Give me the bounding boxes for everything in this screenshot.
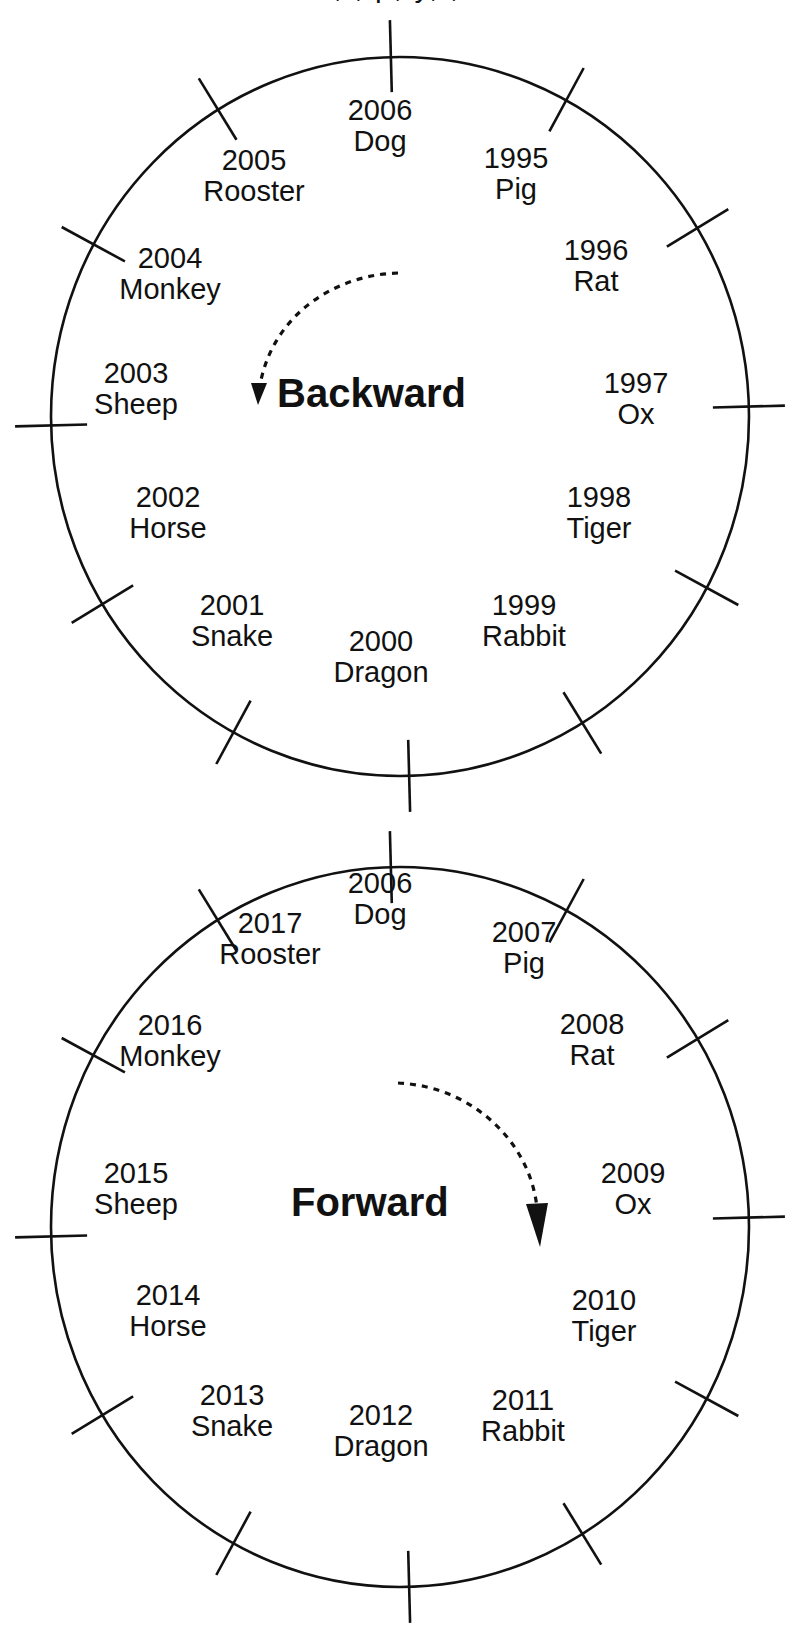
segment-divider-tick — [62, 1038, 125, 1072]
segment-label: 2012Dragon — [333, 1400, 428, 1462]
segment-label: 2013Snake — [191, 1380, 273, 1442]
segment-label: 2005Rooster — [203, 145, 305, 207]
segment-divider-tick — [408, 1551, 410, 1623]
segment-divider-tick — [408, 740, 410, 812]
segment-label: 2002Horse — [129, 482, 206, 544]
segment-label: 2015Sheep — [94, 1158, 178, 1220]
segment-divider-tick — [675, 571, 738, 605]
segment-label: 2004Monkey — [119, 243, 221, 305]
segment-label: 2008Rat — [560, 1009, 625, 1071]
zodiac-wheels-figure: , , p, y, , Backward Forward 2006Dog 199… — [0, 0, 794, 1647]
forward-wheel-circle — [51, 867, 749, 1587]
segment-label: 2007Pig — [492, 917, 557, 979]
segment-divider-tick — [15, 425, 87, 427]
forward-wheel-ticks — [15, 831, 785, 1623]
segment-divider-tick — [564, 1503, 602, 1564]
segment-divider-tick — [62, 227, 125, 261]
segment-label: 2001Snake — [191, 590, 273, 652]
segment-divider-tick — [713, 1217, 785, 1219]
segment-label: 2000Dragon — [333, 626, 428, 688]
segment-label: 2014Horse — [129, 1280, 206, 1342]
segment-divider-tick — [564, 692, 602, 753]
segment-label: 1995Pig — [484, 143, 549, 205]
arrowhead-icon — [251, 383, 267, 405]
segment-label: 1999Rabbit — [482, 590, 566, 652]
segment-label: 2017Rooster — [219, 908, 321, 970]
segment-label: 2009Ox — [601, 1158, 666, 1220]
segment-divider-tick — [72, 1396, 133, 1434]
direction-label-backward: Backward — [277, 371, 466, 415]
segment-label: 2011Rabbit — [481, 1385, 565, 1447]
segment-divider-tick — [390, 20, 392, 92]
segment-divider-tick — [667, 1020, 728, 1058]
segment-divider-tick — [199, 78, 237, 139]
arrowhead-icon — [526, 1203, 548, 1247]
segment-label: 1998Tiger — [567, 482, 632, 544]
segment-divider-tick — [713, 406, 785, 408]
segment-label: 2006Dog — [348, 868, 413, 930]
forward-wheel — [15, 831, 785, 1623]
segment-label: 2003Sheep — [94, 358, 178, 420]
segment-label: 2016Monkey — [119, 1010, 221, 1072]
segment-label: 1996Rat — [564, 235, 629, 297]
direction-label-forward: Forward — [291, 1180, 449, 1224]
segment-divider-tick — [15, 1236, 87, 1238]
segment-divider-tick — [549, 68, 583, 131]
segment-label: 2010Tiger — [572, 1285, 637, 1347]
segment-label: 1997Ox — [604, 368, 669, 430]
segment-label: 2006Dog — [348, 95, 413, 157]
segment-divider-tick — [675, 1382, 738, 1416]
segment-divider-tick — [667, 209, 728, 247]
segment-divider-tick — [72, 585, 133, 623]
segment-divider-tick — [216, 1512, 250, 1575]
segment-divider-tick — [216, 701, 250, 764]
